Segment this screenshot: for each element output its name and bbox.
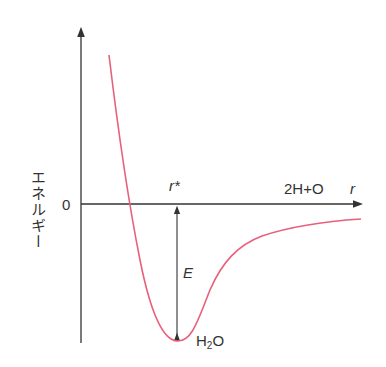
potential-energy-diagram: エネルギー 0 r* 2H+O r E H2O — [0, 0, 386, 367]
energy-depth-label: E — [183, 265, 193, 280]
y-axis-label: エネルギー — [30, 170, 45, 250]
molecule-label: H2O — [196, 333, 224, 351]
diagram-canvas — [0, 0, 386, 367]
potential-curve — [109, 55, 361, 341]
molecule-label-tail: O — [212, 332, 224, 349]
x-axis-label: r — [350, 181, 355, 196]
equilibrium-distance-label: r* — [169, 178, 180, 193]
molecule-label-main: H — [196, 332, 207, 349]
zero-label: 0 — [62, 197, 70, 212]
dissociated-state-label: 2H+O — [284, 181, 324, 196]
